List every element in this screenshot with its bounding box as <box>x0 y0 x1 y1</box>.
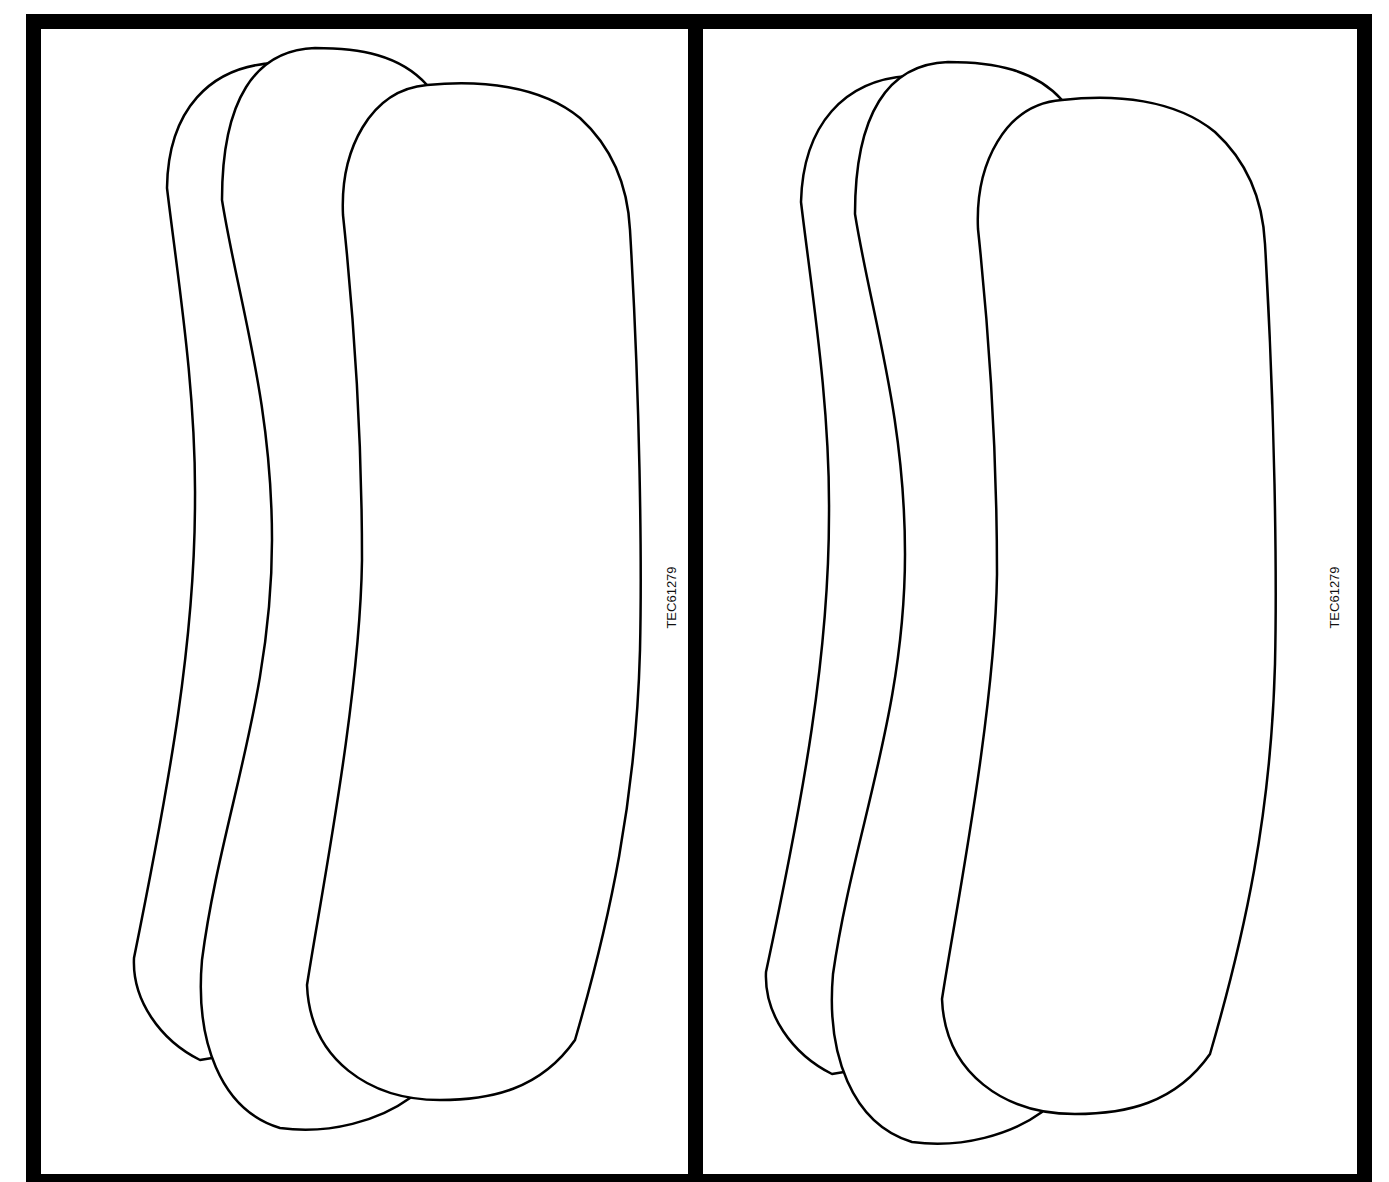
right-code-label: TEC61279 <box>1327 566 1342 628</box>
diagram-canvas <box>0 0 1389 1182</box>
right-panel <box>766 62 1276 1144</box>
left-code-label: TEC61279 <box>664 566 679 628</box>
left-panel <box>134 48 641 1130</box>
